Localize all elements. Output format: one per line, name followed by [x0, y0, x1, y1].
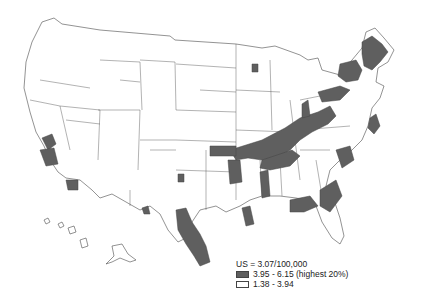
area-colorado [178, 174, 184, 182]
legend-swatch-light [236, 281, 249, 288]
area-kansas-missouri [210, 146, 236, 156]
legend-swatch-dark [236, 271, 249, 278]
legend-class-low: 1.38 - 3.94 [236, 279, 348, 289]
area-louisiana [242, 206, 254, 226]
legend-label-low: 1.38 - 3.94 [253, 279, 294, 289]
contiguous-us [24, 18, 394, 244]
legend-class-high: 3.95 - 6.15 (highest 20%) [236, 269, 348, 279]
legend-label-high: 3.95 - 6.15 (highest 20%) [253, 269, 348, 279]
us-choropleth-map [0, 0, 447, 299]
map-legend: US = 3.07/100,000 3.95 - 6.15 (highest 2… [236, 259, 348, 289]
area-arkansas [260, 170, 270, 198]
area-minnesota [252, 64, 258, 72]
legend-us-rate: US = 3.07/100,000 [236, 259, 348, 269]
area-oklahoma [228, 160, 242, 184]
hawaii [44, 218, 88, 248]
area-california-south [66, 180, 78, 190]
alaska [106, 244, 136, 264]
